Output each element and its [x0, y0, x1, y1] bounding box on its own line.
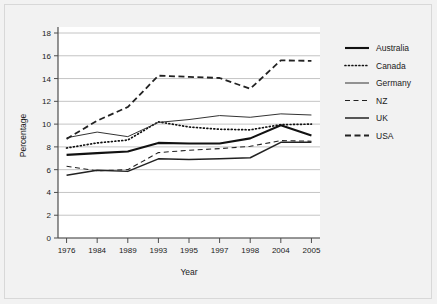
y-axis-tick-label: 8 — [47, 143, 52, 152]
legend-label-usa: USA — [376, 131, 394, 141]
legend-label-nz: NZ — [376, 96, 387, 106]
y-axis-tick-label: 16 — [42, 52, 51, 61]
x-axis-tick-label: 1997 — [211, 246, 229, 255]
x-axis-tick-label: 1998 — [241, 246, 259, 255]
x-axis-tick-label: 2004 — [272, 246, 290, 255]
legend-label-uk: UK — [376, 113, 388, 123]
y-axis-tick-label: 14 — [42, 75, 51, 84]
x-axis-ticks: 197619841989199319951997199820042005 — [58, 238, 321, 255]
x-axis-tick-label: 2005 — [303, 246, 321, 255]
x-axis-tick-label: 1995 — [180, 246, 198, 255]
x-axis-tick-label: 1984 — [88, 246, 106, 255]
y-axis-tick-label: 12 — [42, 97, 51, 106]
y-axis-tick-label: 4 — [47, 188, 52, 197]
legend-label-canada: Canada — [376, 61, 406, 71]
y-axis-tick-label: 2 — [47, 211, 52, 220]
figure-container: 0246810121416181976198419891993199519971… — [0, 0, 437, 304]
x-axis-tick-label: 1976 — [58, 246, 76, 255]
y-axis-tick-label: 18 — [42, 29, 51, 38]
y-axis-tick-label: 10 — [42, 120, 51, 129]
legend-label-germany: Germany — [376, 78, 412, 88]
x-axis-tick-label: 1989 — [119, 246, 137, 255]
x-axis-tick-label: 1993 — [149, 246, 167, 255]
y-axis-title: Percentage — [18, 113, 28, 157]
y-axis-tick-label: 0 — [47, 234, 52, 243]
legend-label-australia: Australia — [376, 43, 409, 53]
x-axis-title: Year — [180, 267, 197, 277]
y-axis-tick-label: 6 — [47, 166, 52, 175]
legend: AustraliaCanadaGermanyNZUKUSA — [345, 43, 412, 141]
line-chart: 0246810121416181976198419891993199519971… — [0, 0, 437, 304]
